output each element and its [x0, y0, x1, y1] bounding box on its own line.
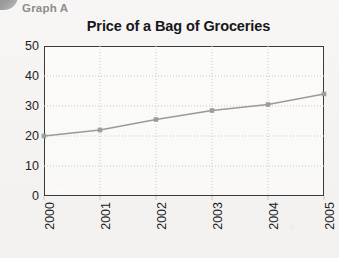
y-tick-label: 30	[25, 99, 39, 113]
x-tick-label: 2002	[155, 202, 169, 230]
chart-title: Price of a Bag of Groceries	[0, 18, 339, 34]
y-tick-label: 0	[32, 189, 39, 203]
x-tick-label: 2000	[43, 202, 57, 230]
y-tick-label: 10	[25, 159, 39, 173]
x-tick-label: 2005	[323, 202, 337, 230]
page-corner-mark-icon	[0, 0, 18, 10]
y-tick-label: 50	[25, 39, 39, 53]
x-tick-label: 2004	[267, 202, 281, 230]
chart-plot: 01020304050 200020012002200320042005	[44, 46, 324, 196]
x-tick-label: 2003	[211, 202, 225, 230]
y-tick-label: 20	[25, 129, 39, 143]
graph-label: Graph A	[22, 2, 68, 14]
chart-series-line	[44, 46, 324, 196]
y-tick-label: 40	[25, 69, 39, 83]
scanned-page-background: Graph A Price of a Bag of Groceries 0102…	[0, 0, 339, 258]
x-tick-label: 2001	[99, 202, 113, 230]
